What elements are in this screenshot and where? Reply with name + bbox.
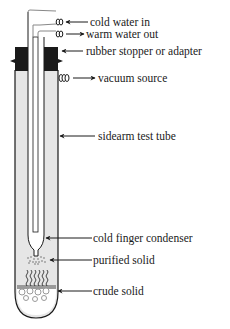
label-rubber-stopper: rubber stopper or adapter	[86, 45, 202, 58]
label-warm-water-out: warm water out	[86, 28, 159, 40]
cold-water-connector-icon	[56, 19, 63, 25]
cold-finger-condenser	[28, 12, 44, 256]
label-vacuum-source: vacuum source	[98, 72, 167, 84]
label-purified-solid: purified solid	[93, 254, 155, 267]
warm-water-connector-icon	[56, 31, 63, 37]
label-cold-finger-condenser: cold finger condenser	[93, 232, 193, 245]
vacuum-connector-icon	[59, 75, 69, 82]
sublimation-apparatus-diagram: cold water in warm water out rubber stop…	[0, 0, 230, 329]
label-crude-solid: crude solid	[93, 285, 144, 297]
label-sidearm-test-tube: sidearm test tube	[98, 130, 176, 142]
label-cold-water-in: cold water in	[90, 16, 150, 28]
